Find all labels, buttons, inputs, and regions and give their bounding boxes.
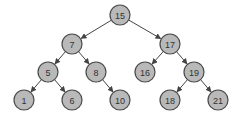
node-label: 7 [69,40,74,50]
edge-15-to-17 [129,20,161,38]
tree-node-15: 15 [110,5,130,25]
node-label: 8 [93,68,98,78]
tree-node-16: 16 [135,62,155,82]
edge-5-to-6 [55,80,65,92]
edge-8-to-10 [103,80,113,92]
node-label: 10 [115,96,125,106]
edge-7-to-5 [55,52,65,64]
tree-node-1: 1 [14,90,34,110]
binary-tree-diagram: 1571758161916101821 [0,0,242,118]
edge-5-to-1 [31,80,41,92]
tree-node-10: 10 [110,90,130,110]
tree-node-19: 19 [184,62,204,82]
nodes-layer: 1571758161916101821 [14,5,228,110]
node-label: 15 [115,11,125,21]
node-label: 21 [213,96,223,106]
node-label: 18 [165,96,175,106]
tree-node-17: 17 [160,34,180,54]
edge-17-to-16 [152,51,163,63]
node-label: 17 [165,40,175,50]
tree-node-8: 8 [86,62,106,82]
tree-node-6: 6 [62,90,82,110]
node-label: 5 [45,68,50,78]
tree-node-5: 5 [38,62,58,82]
edges-layer [31,20,211,92]
edge-7-to-8 [79,52,89,64]
node-label: 19 [189,68,199,78]
tree-node-18: 18 [160,90,180,110]
node-label: 6 [69,96,74,106]
edge-19-to-21 [201,80,211,92]
edge-15-to-7 [81,20,111,38]
tree-node-21: 21 [208,90,228,110]
tree-node-7: 7 [62,34,82,54]
edge-19-to-18 [177,80,187,92]
node-label: 16 [140,68,150,78]
node-label: 1 [21,96,26,106]
edge-17-to-19 [177,52,187,64]
